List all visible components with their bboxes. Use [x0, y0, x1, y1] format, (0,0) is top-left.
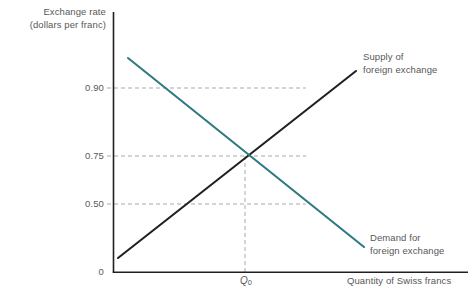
supply-curve: [118, 71, 356, 258]
y-tick-label-090: 0.90: [52, 82, 104, 95]
supply-label-line1: Supply of: [363, 51, 404, 62]
y-tick-label-075: 0.75: [52, 150, 104, 163]
demand-label-line1: Demand for: [370, 232, 421, 243]
y-axis-title-line1: Exchange rate: [43, 6, 106, 17]
q0-symbol: Q: [240, 275, 248, 286]
y-axis-title-line2: (dollars per franc): [30, 19, 106, 30]
y-tick-label-050: 0.50: [52, 198, 104, 211]
demand-curve-label: Demand forforeign exchange: [370, 232, 476, 257]
x-tick-label-q0: Q0: [232, 275, 260, 290]
supply-curve-label: Supply offoreign exchange: [363, 51, 475, 76]
x-axis-title: Quantity of Swiss francs: [347, 275, 476, 288]
demand-label-line2: foreign exchange: [370, 245, 445, 256]
y-tick-label-origin: 0: [52, 266, 104, 279]
q0-subscript: 0: [248, 278, 252, 287]
supply-label-line2: foreign exchange: [363, 64, 438, 75]
exchange-rate-diagram: Exchange rate(dollars per franc) 0.90 0.…: [0, 0, 476, 296]
demand-curve: [128, 58, 364, 247]
y-axis-title: Exchange rate(dollars per franc): [14, 6, 106, 31]
